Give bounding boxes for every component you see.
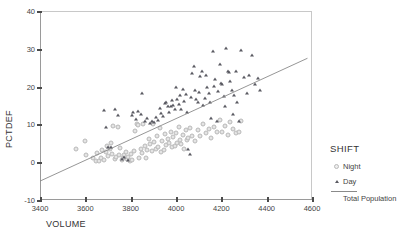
y-tick-label: 40 <box>27 7 35 16</box>
x-tick-label: 3800 <box>122 204 139 213</box>
y-axis-title: PCTDEF <box>4 110 14 148</box>
x-tick-mark <box>176 197 178 202</box>
y-tick-mark <box>37 162 42 164</box>
y-tick-label: 30 <box>27 44 35 53</box>
y-tick-mark <box>37 124 42 126</box>
x-tick-label: 4400 <box>258 204 275 213</box>
legend-label-total-population: Total Population <box>343 194 405 203</box>
legend-item-total-population[interactable]: Total Population <box>330 191 405 203</box>
x-tick-label: 3600 <box>77 204 94 213</box>
y-tick-label: 10 <box>27 120 35 129</box>
x-tick-mark <box>312 197 314 202</box>
plot-area: -10010203040 340036003800400042004400460… <box>40 11 312 200</box>
y-tick-mark <box>37 11 42 13</box>
legend: SHIFT Night Day Total Population <box>330 143 405 203</box>
night-marker-icon <box>330 164 343 169</box>
legend-label-night: Night <box>343 162 361 171</box>
x-tick-label: 4200 <box>213 204 230 213</box>
legend-title: SHIFT <box>330 143 405 154</box>
legend-item-day[interactable]: Day <box>330 175 405 187</box>
y-tick-label: 20 <box>27 82 35 91</box>
x-tick-mark <box>85 197 87 202</box>
y-tick-label: 0 <box>31 158 35 167</box>
x-tick-mark <box>221 197 223 202</box>
scatter-plot-figure: -10010203040 340036003800400042004400460… <box>0 0 405 239</box>
x-tick-mark <box>267 197 269 202</box>
y-tick-mark <box>37 87 42 89</box>
day-marker-icon <box>330 180 343 183</box>
legend-label-day: Day <box>343 177 356 186</box>
y-tick-mark <box>37 49 42 51</box>
x-tick-label: 3400 <box>32 204 49 213</box>
legend-item-night[interactable]: Night <box>330 160 405 172</box>
x-tick-mark <box>131 197 133 202</box>
x-axis-title: VOLUME <box>46 219 86 229</box>
x-tick-mark <box>40 197 42 202</box>
regression-line <box>40 11 312 200</box>
x-tick-label: 4600 <box>304 204 321 213</box>
x-tick-label: 4000 <box>168 204 185 213</box>
trend-line-icon <box>331 191 357 192</box>
